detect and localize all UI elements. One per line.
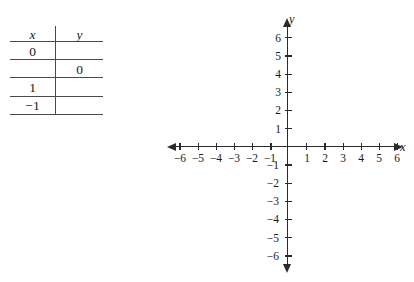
x-tick-label-1: 1 — [297, 152, 317, 164]
table-cell-y-3[interactable] — [56, 97, 103, 114]
x-tick-2 — [324, 143, 325, 150]
x-tick--2 — [252, 143, 253, 150]
x-tick-6 — [397, 143, 398, 150]
y-tick-3 — [285, 92, 292, 93]
x-tick--6 — [179, 143, 180, 150]
y-tick-6 — [285, 37, 292, 38]
x-tick-label-4: 4 — [351, 152, 371, 164]
y-tick-label--2: −2 — [259, 177, 279, 189]
value-table: x y 0 0 1 −1 — [10, 26, 103, 115]
y-tick-label-1: 1 — [261, 123, 281, 135]
y-tick-2 — [285, 110, 292, 111]
x-tick-3 — [343, 143, 344, 150]
x-axis — [174, 146, 396, 147]
y-tick--6 — [285, 255, 292, 256]
y-tick--5 — [285, 237, 292, 238]
y-tick-5 — [285, 55, 292, 56]
y-tick-label--4: −4 — [259, 213, 279, 225]
x-tick--5 — [198, 143, 199, 150]
x-tick-label--6: −6 — [170, 152, 190, 164]
y-tick-label-2: 2 — [261, 104, 281, 116]
table-cell-y-1[interactable]: 0 — [56, 61, 103, 78]
y-axis-label: y — [289, 12, 295, 27]
x-tick-label--3: −3 — [224, 152, 244, 164]
y-tick-label--1: −1 — [259, 159, 279, 171]
x-tick--1 — [270, 143, 271, 150]
x-axis-arrow-left-icon — [167, 143, 176, 151]
y-tick-label--3: −3 — [259, 195, 279, 207]
x-tick-label-6: 6 — [387, 152, 407, 164]
x-tick-label-3: 3 — [333, 152, 353, 164]
table-cell-x-1[interactable] — [10, 61, 55, 78]
y-tick-4 — [285, 74, 292, 75]
x-tick-label-5: 5 — [369, 152, 389, 164]
y-tick--3 — [285, 201, 292, 202]
y-axis-arrow-down-icon — [283, 264, 291, 273]
table-cell-x-0[interactable]: 0 — [10, 43, 55, 60]
y-tick--4 — [285, 219, 292, 220]
x-tick-4 — [361, 143, 362, 150]
x-tick-1 — [306, 143, 307, 150]
x-tick-5 — [379, 143, 380, 150]
y-tick--1 — [285, 164, 292, 165]
table-header-x: x — [10, 26, 55, 43]
y-tick-label-5: 5 — [261, 50, 281, 62]
table-rule — [10, 114, 103, 115]
x-tick-label-2: 2 — [315, 152, 335, 164]
y-tick-label-6: 6 — [261, 32, 281, 44]
x-tick--4 — [216, 143, 217, 150]
x-tick-label--4: −4 — [206, 152, 226, 164]
y-tick-label-3: 3 — [261, 86, 281, 98]
x-tick--3 — [234, 143, 235, 150]
table-cell-x-2[interactable]: 1 — [10, 79, 55, 96]
coordinate-plane: x y −6 −5 −4 −3 −2 −1 1 2 3 4 5 6 6 5 4 … — [168, 14, 408, 272]
y-tick-label--6: −6 — [259, 250, 279, 262]
y-tick-label--5: −5 — [259, 232, 279, 244]
x-tick-label--5: −5 — [188, 152, 208, 164]
table-header-y: y — [56, 26, 103, 43]
y-tick-label-4: 4 — [261, 68, 281, 80]
y-axis — [287, 26, 288, 266]
table-cell-x-3[interactable]: −1 — [10, 97, 55, 114]
table-cell-y-2[interactable] — [56, 79, 103, 96]
table-cell-y-0[interactable] — [56, 43, 103, 60]
y-tick-1 — [285, 128, 292, 129]
y-tick--2 — [285, 183, 292, 184]
